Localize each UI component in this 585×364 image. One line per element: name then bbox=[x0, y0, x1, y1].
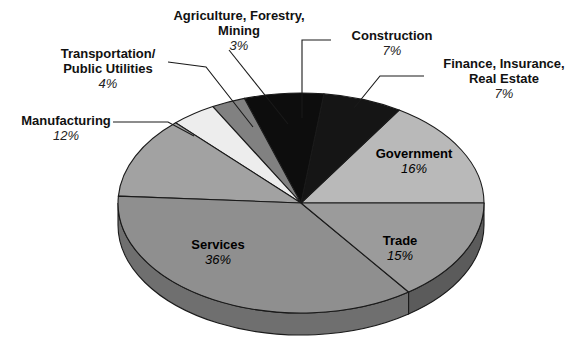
label-services: Services 36% bbox=[176, 237, 260, 267]
label-transportation-public-utilities: Transportation/ Public Utilities 4% bbox=[36, 46, 180, 91]
label-agriculture-line2: Mining bbox=[218, 23, 260, 38]
label-finance-percent: 7% bbox=[428, 86, 580, 101]
label-finance-line1: Finance, Insurance, bbox=[443, 56, 564, 71]
label-manufacturing-line1: Manufacturing bbox=[21, 113, 111, 128]
label-trade-line1: Trade bbox=[383, 233, 418, 248]
label-government: Government 16% bbox=[360, 146, 468, 176]
label-construction: Construction 7% bbox=[334, 28, 450, 58]
label-transportation-percent: 4% bbox=[36, 76, 180, 91]
label-manufacturing-percent: 12% bbox=[6, 128, 126, 143]
label-transportation-line1: Transportation/ bbox=[61, 46, 156, 61]
label-finance-line2: Real Estate bbox=[469, 71, 539, 86]
pie-chart: Agriculture, Forestry, Mining 3% Transpo… bbox=[0, 0, 585, 364]
label-services-line1: Services bbox=[191, 237, 245, 252]
label-manufacturing: Manufacturing 12% bbox=[6, 113, 126, 143]
label-construction-line1: Construction bbox=[352, 28, 433, 43]
label-government-line1: Government bbox=[376, 146, 453, 161]
label-transportation-line2: Public Utilities bbox=[63, 61, 153, 76]
pie-top-face bbox=[118, 93, 484, 313]
label-finance-insurance-real-estate: Finance, Insurance, Real Estate 7% bbox=[428, 56, 580, 101]
label-trade: Trade 15% bbox=[370, 233, 430, 263]
label-trade-percent: 15% bbox=[370, 248, 430, 263]
label-government-percent: 16% bbox=[360, 161, 468, 176]
label-services-percent: 36% bbox=[176, 252, 260, 267]
label-agriculture-line1: Agriculture, Forestry, bbox=[173, 8, 304, 23]
